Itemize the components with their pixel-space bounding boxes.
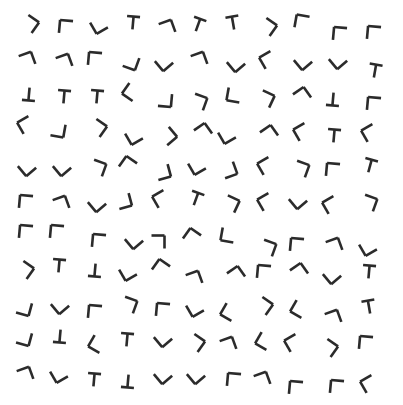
item-segment	[93, 374, 94, 387]
item-segment	[127, 375, 128, 388]
item-segment	[59, 330, 60, 343]
item-segment	[289, 381, 290, 394]
item-segment	[132, 17, 133, 30]
item-segment	[333, 27, 334, 40]
item-segment	[359, 336, 360, 349]
item-segment	[63, 91, 64, 104]
item-segment	[50, 225, 51, 238]
item-segment	[89, 305, 102, 306]
item-segment	[51, 225, 64, 226]
item-segment	[257, 265, 258, 278]
item-segment	[327, 163, 340, 164]
item-segment	[20, 225, 33, 226]
item-segment	[291, 238, 304, 239]
item-segment	[89, 52, 102, 53]
item-segment	[368, 266, 369, 279]
item-segment	[158, 106, 171, 107]
item-segment	[367, 97, 368, 110]
item-segment	[157, 303, 170, 304]
item-segment	[156, 303, 157, 316]
item-segment	[19, 195, 20, 208]
item-segment	[228, 373, 241, 374]
item-segment	[334, 27, 347, 28]
item-segment	[332, 93, 333, 106]
item-segment	[60, 20, 73, 21]
item-segment	[28, 88, 29, 101]
item-segment	[88, 52, 89, 65]
item-segment	[331, 380, 344, 381]
item-segment	[367, 26, 368, 39]
item-segment	[360, 336, 373, 337]
item-segment	[94, 264, 95, 277]
visual-search-stimulus-canvas	[0, 0, 403, 405]
item-segment	[326, 163, 327, 176]
item-segment	[126, 334, 127, 347]
item-segment	[290, 238, 291, 251]
item-segment	[19, 225, 20, 238]
item-segment	[171, 94, 172, 107]
stimulus-svg	[0, 0, 403, 405]
item-segment	[58, 260, 59, 273]
item-segment	[88, 305, 89, 318]
item-segment	[290, 381, 303, 382]
item-segment	[368, 26, 381, 27]
item-segment	[330, 380, 331, 393]
item-segment	[258, 265, 271, 266]
item-segment	[96, 91, 97, 104]
item-segment	[59, 20, 60, 33]
item-segment	[20, 195, 33, 196]
item-segment	[227, 373, 228, 386]
item-segment	[368, 97, 381, 98]
item-segment	[93, 234, 106, 235]
item-segment	[333, 130, 334, 143]
item-segment	[92, 234, 93, 247]
